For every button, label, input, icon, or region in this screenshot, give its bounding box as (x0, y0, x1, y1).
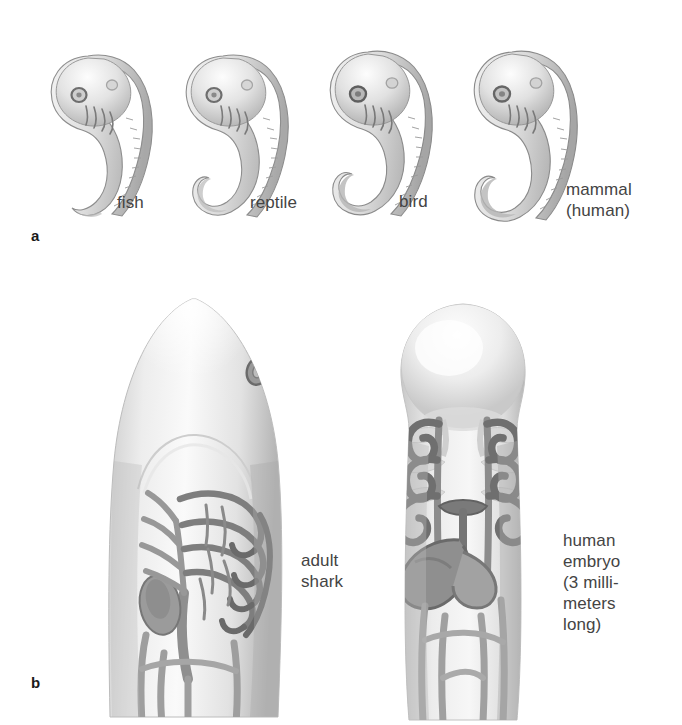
embryo-illustration-bird (308, 38, 458, 223)
figure-label-human-embryo: human embryo (3 milli- meters long) (563, 530, 620, 635)
embryo-label-fish: fish (117, 192, 144, 213)
panel-label-b: b (31, 674, 40, 691)
embryo-illustration-fish (30, 40, 180, 225)
shark-circulation-illustration (88, 293, 303, 723)
embryo-label-bird: bird (399, 191, 428, 212)
embryo-label-reptile: reptile (250, 192, 297, 213)
figure-label-adult-shark: adult shark (301, 550, 343, 592)
embryo-label-mammal: mammal (human) (566, 179, 632, 221)
human-embryo-circulation-illustration (375, 300, 550, 725)
panel-a: fish (0, 0, 682, 265)
comparative-embryology-figure: fish (0, 0, 682, 725)
panel-label-a: a (31, 227, 40, 244)
panel-b: adult shark (0, 265, 682, 725)
